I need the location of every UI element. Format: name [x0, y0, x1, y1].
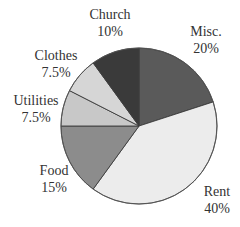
- label-rent-pct: 40%: [196, 200, 238, 217]
- label-utilities-pct: 7.5%: [8, 109, 64, 126]
- label-utilities-name: Utilities: [8, 92, 64, 109]
- label-church: Church 10%: [78, 6, 142, 40]
- label-clothes: Clothes 7.5%: [28, 47, 84, 81]
- label-rent: Rent 40%: [196, 183, 238, 217]
- label-misc-pct: 20%: [180, 40, 232, 57]
- label-church-pct: 10%: [78, 23, 142, 40]
- label-church-name: Church: [78, 6, 142, 23]
- label-misc-name: Misc.: [180, 23, 232, 40]
- label-clothes-name: Clothes: [28, 47, 84, 64]
- label-rent-name: Rent: [196, 183, 238, 200]
- label-misc: Misc. 20%: [180, 23, 232, 57]
- label-food: Food 15%: [30, 162, 78, 196]
- label-food-name: Food: [30, 162, 78, 179]
- label-food-pct: 15%: [30, 179, 78, 196]
- label-utilities: Utilities 7.5%: [8, 92, 64, 126]
- label-clothes-pct: 7.5%: [28, 64, 84, 81]
